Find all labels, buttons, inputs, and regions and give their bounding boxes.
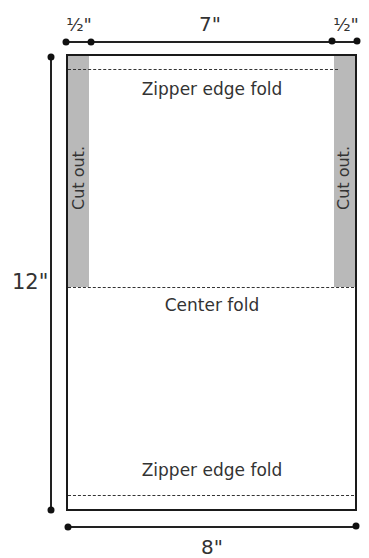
top-dimension-dot-4 bbox=[354, 38, 361, 45]
top-dimension-line bbox=[66, 41, 357, 43]
height-dimension-dot-bottom bbox=[48, 507, 55, 514]
top-dimension-dot-1 bbox=[63, 39, 70, 46]
width-dimension-dot-left bbox=[65, 524, 72, 531]
top-zipper-fold-label: Zipper edge fold bbox=[142, 81, 283, 98]
width-dimension-label: 8" bbox=[201, 537, 223, 557]
bottom-zipper-fold-label: Zipper edge fold bbox=[142, 462, 283, 479]
width-dimension-dot-right bbox=[353, 523, 360, 530]
right-seam-dimension-label: ½" bbox=[333, 16, 359, 34]
top-dimension-dot-2 bbox=[88, 39, 95, 46]
middle-width-dimension-label: 7" bbox=[199, 14, 221, 34]
height-dimension-label: 12" bbox=[12, 272, 48, 293]
left-seam-dimension-label: ½" bbox=[66, 16, 92, 34]
top-zipper-fold-line bbox=[68, 69, 338, 70]
top-dimension-dot-3 bbox=[329, 38, 336, 45]
width-dimension-line bbox=[68, 526, 356, 528]
height-dimension-line bbox=[50, 57, 52, 510]
center-fold-line bbox=[68, 287, 354, 288]
right-cutout-label: Cut out. bbox=[336, 146, 352, 210]
center-fold-label: Center fold bbox=[165, 297, 260, 314]
height-dimension-dot-top bbox=[48, 54, 55, 61]
bottom-zipper-fold-line bbox=[68, 495, 354, 496]
fabric-panel: Zipper edge fold Center fold Zipper edge… bbox=[66, 54, 357, 511]
left-cutout-label: Cut out. bbox=[71, 146, 87, 210]
